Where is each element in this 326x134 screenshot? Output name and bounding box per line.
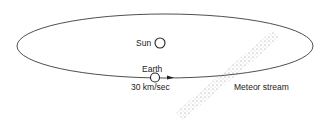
meteor-stream-label: Meteor stream [234, 82, 289, 92]
earth-orbit-meteor-diagram: Sun Earth 30 km/sec Meteor stream [0, 0, 326, 134]
earth-icon [151, 73, 160, 82]
sun-label: Sun [136, 38, 151, 48]
earth-label: Earth [142, 64, 163, 74]
direction-arrow-icon [167, 76, 174, 80]
earth-speed-label: 30 km/sec [131, 82, 170, 92]
sun-icon [155, 38, 165, 48]
